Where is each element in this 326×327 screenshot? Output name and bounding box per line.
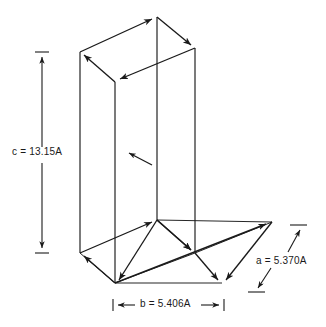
top-edge-back-right — [157, 17, 191, 45]
top-edge-front-left — [84, 55, 115, 82]
c-dimension-label: c = 13.15A — [10, 147, 64, 157]
base-diagonal-front-farright — [115, 224, 266, 283]
interior-direction-arrow — [129, 153, 152, 165]
unit-cell-drawing — [0, 0, 326, 327]
interior-arrow — [129, 153, 152, 165]
a-dimension-label: a = 5.370A — [254, 256, 309, 266]
a-arrow-upper — [288, 230, 300, 252]
top-edge-left-back — [80, 19, 152, 52]
base-line-back-farright — [157, 220, 272, 222]
a-arrow-lower — [258, 268, 271, 288]
prism-top-face — [80, 17, 195, 82]
unit-cell-figure: c = 13.15A a = 5.370A b = 5.406A — [0, 0, 326, 327]
bottom-diagonal-back-front — [119, 220, 157, 280]
base-edge-back-right-dup — [157, 220, 191, 250]
base-edge-right-frontright — [195, 253, 218, 280]
b-dimension-label: b = 5.406A — [138, 299, 193, 309]
base-line-left-front — [80, 253, 115, 283]
bottom-edge-left-back — [80, 222, 152, 253]
prism-vertical-edges — [80, 17, 195, 283]
prism-bottom-face — [80, 220, 191, 283]
base-second-cell — [115, 220, 272, 283]
base-lattice-lines — [80, 220, 272, 283]
